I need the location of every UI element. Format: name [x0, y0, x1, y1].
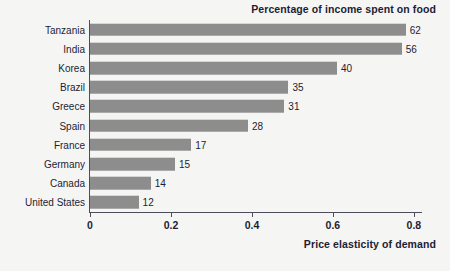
bar[interactable] — [90, 196, 139, 209]
bar-value-label: 17 — [195, 139, 206, 150]
bar-row: India56 — [90, 39, 422, 58]
x-tick-label: 0 — [87, 219, 93, 231]
plot-area: Tanzania62India56Korea40Brazil35Greece31… — [90, 20, 422, 212]
bar-value-label: 14 — [155, 178, 166, 189]
category-label: Spain — [59, 120, 85, 131]
category-label: Germany — [44, 158, 85, 169]
category-label: India — [63, 43, 85, 54]
bar-value-label: 12 — [143, 197, 154, 208]
x-tick-mark — [252, 212, 253, 217]
x-tick-mark — [171, 212, 172, 217]
bar-row: Canada14 — [90, 174, 422, 193]
bar-row: Korea40 — [90, 58, 422, 77]
x-tick-label: 0.6 — [326, 219, 341, 231]
x-axis-title: Price elasticity of demand — [0, 238, 436, 250]
bar-value-label: 40 — [341, 62, 352, 73]
bar-row: Germany15 — [90, 154, 422, 173]
x-tick-mark — [90, 212, 91, 217]
bar-value-label: 28 — [252, 120, 263, 131]
bar-row: Spain28 — [90, 116, 422, 135]
category-label: United States — [25, 197, 85, 208]
category-label: Korea — [58, 62, 85, 73]
bar[interactable] — [90, 177, 151, 190]
category-label: Brazil — [60, 82, 85, 93]
bar-value-label: 35 — [292, 82, 303, 93]
bar[interactable] — [90, 119, 248, 132]
category-label: Tanzania — [45, 24, 85, 35]
bar-row: France17 — [90, 135, 422, 154]
bar[interactable] — [90, 158, 175, 171]
bar[interactable] — [90, 138, 191, 151]
bar-row: Greece31 — [90, 97, 422, 116]
bar-value-label: 56 — [406, 43, 417, 54]
chart-figure: Percentage of income spent on food Tanza… — [0, 0, 450, 271]
x-tick-mark — [333, 212, 334, 217]
x-tick-label: 0.4 — [245, 219, 260, 231]
chart-title: Percentage of income spent on food — [0, 3, 436, 15]
x-tick-mark — [414, 212, 415, 217]
bar-row: United States12 — [90, 193, 422, 212]
bar[interactable] — [90, 23, 406, 36]
category-label: France — [54, 139, 85, 150]
bar[interactable] — [90, 42, 402, 55]
x-axis-line — [89, 212, 422, 213]
x-tick-label: 0.8 — [407, 219, 422, 231]
bar[interactable] — [90, 100, 284, 113]
bar-row: Tanzania62 — [90, 20, 422, 39]
bar[interactable] — [90, 81, 288, 94]
bar-value-label: 15 — [179, 158, 190, 169]
category-label: Canada — [50, 178, 85, 189]
bar-value-label: 62 — [410, 24, 421, 35]
category-label: Greece — [52, 101, 85, 112]
x-tick-label: 0.2 — [164, 219, 179, 231]
bar[interactable] — [90, 62, 337, 75]
bar-value-label: 31 — [288, 101, 299, 112]
bar-row: Brazil35 — [90, 78, 422, 97]
